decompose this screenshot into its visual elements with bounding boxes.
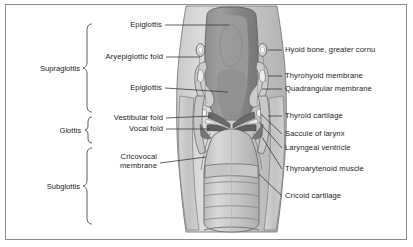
label-thyroarytenoid-muscle: Thyroarytenoid muscle [285,164,364,173]
label-hyoid-bone-greater-cornu: Hyoid bone, greater cornu [285,45,375,54]
label-vocal-fold: Vocal fold [60,124,163,133]
label-vestibular-fold: Vestibular fold [60,113,163,122]
label-epiglottis-upper: Epiglottis [60,20,162,29]
region-label-subglottis: Subglottis [0,182,80,191]
label-epiglottis-lower: Epiglottis [60,83,162,92]
label-cricovocal-membrane: Cricovocal membrane [56,152,157,170]
label-laryngeal-ventricle: Laryngeal ventricle [285,143,351,152]
label-aryepiglottic-fold: Aryepiglottic fold [56,52,163,61]
left-hyoid-marrow [199,47,203,53]
label-saccule-of-larynx: Saccule of larynx [285,129,345,138]
region-label-supraglottis: Supraglottis [0,64,80,73]
label-cricovocal-line1: Cricovocal [56,152,157,161]
label-thyrohyoid-membrane: Thyrohyoid membrane [285,71,363,80]
hyoid-bone-marrow [261,47,265,53]
label-cricoid-cartilage: Cricoid cartilage [285,191,341,200]
larynx-anatomy-figure: Supraglottis Glottis Subglottis Epiglott… [0,0,413,247]
label-quadrangular-membrane: Quadrangular membrane [285,84,372,93]
larynx-illustration [177,6,287,232]
label-thyroid-cartilage: Thyroid cartilage [285,111,343,120]
supraglottis-bracket [83,24,92,112]
label-cricovocal-line2: membrane [56,161,157,170]
